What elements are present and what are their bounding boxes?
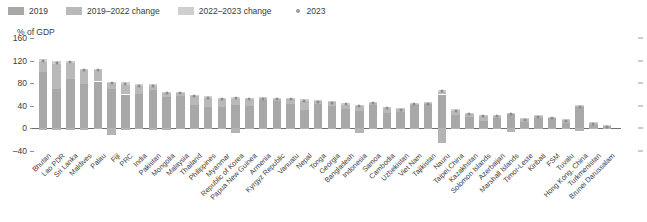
bar-segment-negative bbox=[259, 128, 268, 129]
bar-column[interactable] bbox=[204, 38, 213, 151]
y-axis-tick-dash bbox=[30, 61, 34, 62]
bar-column[interactable] bbox=[575, 38, 584, 151]
y-axis-tick-right bbox=[638, 83, 643, 84]
legend-2019[interactable]: 2019 bbox=[8, 7, 48, 16]
legend-item-label: 2023 bbox=[307, 7, 326, 16]
bar-segment-2019 bbox=[135, 94, 144, 128]
bar-column[interactable] bbox=[451, 38, 460, 151]
bar-segment-negative bbox=[341, 128, 350, 129]
bar-column[interactable] bbox=[603, 38, 612, 151]
marker-2023 bbox=[69, 61, 72, 64]
bar-segment-2019 bbox=[341, 109, 350, 128]
legend-item-label: 2022–2023 change bbox=[199, 7, 272, 16]
bar-column[interactable] bbox=[383, 38, 392, 151]
marker-2023 bbox=[165, 92, 168, 95]
bar-column[interactable] bbox=[410, 38, 419, 151]
bar-column[interactable] bbox=[341, 38, 350, 151]
marker-2023 bbox=[537, 115, 540, 118]
bar-column[interactable] bbox=[534, 38, 543, 151]
bar-segment-negative bbox=[176, 128, 185, 129]
marker-2023 bbox=[110, 82, 113, 85]
bar-column[interactable] bbox=[286, 38, 295, 151]
bar-segment-2019 bbox=[218, 107, 227, 128]
bar-segment-negative bbox=[396, 128, 405, 129]
bar-column[interactable] bbox=[520, 38, 529, 151]
bar-column[interactable] bbox=[176, 38, 185, 151]
bar-column[interactable] bbox=[121, 38, 130, 151]
marker-2023 bbox=[330, 101, 333, 104]
bar-segment-negative bbox=[355, 128, 364, 133]
bar-column[interactable] bbox=[438, 38, 447, 151]
bar-column[interactable] bbox=[424, 38, 433, 151]
bar-segment-negative bbox=[66, 128, 75, 129]
bar-segment-2019-2022-change bbox=[66, 63, 75, 79]
bar-column[interactable] bbox=[493, 38, 502, 151]
bar-column[interactable] bbox=[66, 38, 75, 151]
bar-column[interactable] bbox=[273, 38, 282, 151]
bar-segment-negative bbox=[273, 128, 282, 129]
bar-column[interactable] bbox=[135, 38, 144, 151]
marker-2023 bbox=[440, 90, 443, 93]
bar-column[interactable] bbox=[328, 38, 337, 151]
bar-segment-negative bbox=[149, 128, 158, 129]
marker-2023 bbox=[303, 99, 306, 102]
marker-2023 bbox=[55, 61, 58, 64]
bar-column[interactable] bbox=[231, 38, 240, 151]
marker-2023 bbox=[96, 69, 99, 72]
bar-column[interactable] bbox=[259, 38, 268, 151]
bar-column[interactable] bbox=[149, 38, 158, 151]
bar-column[interactable] bbox=[314, 38, 323, 151]
legend-dot-icon bbox=[296, 9, 300, 13]
bar-segment-negative bbox=[424, 128, 433, 129]
y-axis-tick: 160 bbox=[13, 33, 36, 43]
legend-swatch-icon bbox=[66, 7, 82, 15]
legend-2022-2023-change[interactable]: 2022–2023 change bbox=[178, 7, 272, 16]
bar-column[interactable] bbox=[465, 38, 474, 151]
bar-segment-2019 bbox=[438, 95, 447, 129]
marker-2023 bbox=[578, 105, 581, 108]
bar-column[interactable] bbox=[245, 38, 254, 151]
bar-column[interactable] bbox=[548, 38, 557, 151]
marker-2023 bbox=[262, 97, 265, 100]
bar-segment-2019 bbox=[39, 72, 48, 129]
bar-column[interactable] bbox=[300, 38, 309, 151]
y-axis-tick-right bbox=[638, 128, 643, 129]
bar-segment-2019 bbox=[259, 100, 268, 128]
bar-segment-negative bbox=[548, 128, 557, 129]
legend-2023[interactable]: 2023 bbox=[290, 7, 326, 16]
bar-column[interactable] bbox=[562, 38, 571, 151]
bar-segment-negative bbox=[562, 128, 571, 129]
bar-column[interactable] bbox=[396, 38, 405, 151]
marker-2023 bbox=[151, 84, 154, 87]
bar-column[interactable] bbox=[80, 38, 89, 151]
marker-2023 bbox=[496, 115, 499, 118]
bar-column[interactable] bbox=[589, 38, 598, 151]
marker-2023 bbox=[385, 107, 388, 110]
bar-column[interactable] bbox=[107, 38, 116, 151]
x-axis-category-labels: BhutanLao PDRSri LankaMaldivesPalauFijiP… bbox=[36, 152, 614, 222]
plot-area: 16012080400–40 bbox=[36, 38, 614, 151]
bar-segment-2019-2022-change bbox=[80, 70, 89, 84]
bar-column[interactable] bbox=[94, 38, 103, 151]
bar-segment-negative bbox=[218, 128, 227, 129]
bar-column[interactable] bbox=[218, 38, 227, 151]
bar-column[interactable] bbox=[355, 38, 364, 151]
bar-segment-2019 bbox=[204, 107, 213, 128]
marker-2023 bbox=[427, 102, 430, 105]
bar-segment-2019 bbox=[107, 89, 116, 129]
bar-column[interactable] bbox=[507, 38, 516, 151]
bar-segment-2019 bbox=[273, 101, 282, 128]
bar-segment-negative bbox=[603, 128, 612, 129]
marker-2023 bbox=[399, 108, 402, 111]
bar-column[interactable] bbox=[190, 38, 199, 151]
bar-column[interactable] bbox=[479, 38, 488, 151]
bar-column[interactable] bbox=[162, 38, 171, 151]
y-axis-tick-right bbox=[638, 38, 643, 39]
legend-2019-2022-change[interactable]: 2019–2022 change bbox=[66, 7, 160, 16]
y-axis-tick-dash bbox=[30, 106, 34, 107]
bar-segment-negative bbox=[465, 128, 474, 129]
bar-column[interactable] bbox=[52, 38, 61, 151]
marker-2023 bbox=[468, 113, 471, 116]
bar-column[interactable] bbox=[369, 38, 378, 151]
bar-column[interactable] bbox=[39, 38, 48, 151]
